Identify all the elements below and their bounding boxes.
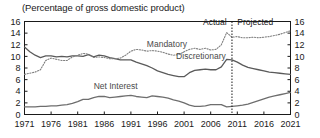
svg-text:6: 6 [15, 75, 20, 85]
svg-text:2006: 2006 [201, 119, 221, 129]
series-line-net-interest [25, 92, 291, 107]
svg-text:12: 12 [10, 40, 20, 50]
svg-text:2001: 2001 [174, 119, 194, 129]
svg-text:4: 4 [15, 86, 20, 96]
svg-text:2011: 2011 [228, 119, 247, 129]
svg-text:8: 8 [15, 63, 20, 73]
svg-text:4: 4 [295, 86, 300, 96]
series-annotations: ActualProjectedMandatoryDiscretionaryNet… [94, 17, 274, 91]
svg-text:14: 14 [295, 28, 305, 38]
svg-text:2021: 2021 [280, 119, 300, 129]
svg-text:1991: 1991 [121, 119, 141, 129]
annotation-net-interest: Net Interest [94, 81, 139, 91]
annotation-discretionary: Discretionary [176, 51, 226, 61]
svg-text:12: 12 [295, 40, 305, 50]
annotation-actual: Actual [203, 17, 227, 27]
svg-text:1976: 1976 [41, 119, 61, 129]
svg-text:1971: 1971 [14, 119, 34, 129]
svg-text:1996: 1996 [147, 119, 167, 129]
svg-text:6: 6 [295, 75, 300, 85]
chart-container: (Percentage of gross domestic product) 0… [0, 0, 320, 138]
svg-text:1986: 1986 [94, 119, 114, 129]
svg-text:10: 10 [295, 52, 305, 62]
annotation-projected: Projected [237, 17, 273, 27]
svg-text:8: 8 [295, 63, 300, 73]
svg-text:2: 2 [295, 98, 300, 108]
svg-text:14: 14 [10, 28, 20, 38]
chart-plot: 0246810121416 0246810121416 197119761981… [0, 0, 320, 138]
svg-text:16: 16 [295, 17, 305, 27]
svg-text:1981: 1981 [68, 119, 88, 129]
svg-text:2016: 2016 [254, 119, 274, 129]
annotation-mandatory: Mandatory [147, 39, 188, 49]
svg-text:16: 16 [10, 17, 20, 27]
svg-text:10: 10 [10, 52, 20, 62]
svg-text:2: 2 [15, 98, 20, 108]
